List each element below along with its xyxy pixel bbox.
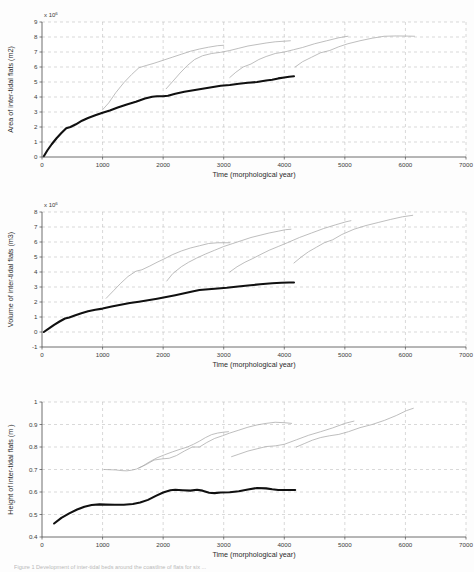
y-tick-label: 0.6	[29, 488, 38, 495]
x-tick-label: 1000	[96, 541, 110, 548]
y-tick-label: 2	[34, 298, 38, 305]
y-tick-label: 4	[34, 93, 38, 100]
y-axis-title: Height of inter-tidal flats (m )	[6, 424, 15, 514]
plot-background	[42, 22, 466, 157]
y-tick-label: 1	[34, 138, 38, 145]
y-tick-label: 3	[34, 283, 38, 290]
x-tick-label: 2000	[156, 351, 170, 358]
y-axis-title: Area of inter-tidal flats (m2)	[6, 46, 15, 133]
chart-svg: 010002000300040005000600070000123456789x…	[0, 0, 474, 190]
y-tick-label: 7	[34, 48, 38, 55]
y-tick-label: 1	[34, 398, 38, 405]
x-tick-label: 3000	[217, 541, 231, 548]
y-tick-label: -1	[32, 343, 38, 350]
y-axis-exponent-label: x 106	[44, 11, 58, 18]
chart-svg: 010002000300040005000600070000.40.50.60.…	[0, 380, 474, 570]
y-tick-label: 7	[34, 223, 38, 230]
x-tick-label: 6000	[399, 541, 413, 548]
x-tick-label: 1000	[96, 351, 110, 358]
y-tick-label: 0.4	[29, 533, 38, 540]
x-tick-label: 7000	[459, 541, 473, 548]
x-axis-title: Time (morphological year)	[212, 170, 295, 179]
y-tick-label: 5	[34, 253, 38, 260]
y-tick-label: 8	[34, 33, 38, 40]
x-tick-label: 1000	[96, 161, 110, 168]
y-tick-label: 4	[34, 268, 38, 275]
x-tick-label: 6000	[399, 161, 413, 168]
y-axis-exponent-label: x 106	[44, 201, 58, 208]
x-tick-label: 5000	[338, 161, 352, 168]
chart-svg: 01000200030004000500060007000-1012345678…	[0, 190, 474, 380]
plot-background	[42, 212, 466, 347]
chart-panel-height: 010002000300040005000600070000.40.50.60.…	[0, 380, 474, 570]
x-tick-label: 4000	[277, 351, 291, 358]
x-tick-label: 3000	[217, 161, 231, 168]
x-tick-label: 3000	[217, 351, 231, 358]
x-axis-title: Time (morphological year)	[212, 550, 295, 559]
y-tick-label: 0.5	[29, 511, 38, 518]
y-tick-label: 0	[34, 328, 38, 335]
x-tick-label: 2000	[156, 541, 170, 548]
x-tick-label: 7000	[459, 161, 473, 168]
x-axis-title: Time (morphological year)	[212, 360, 295, 369]
x-tick-label: 5000	[338, 541, 352, 548]
x-tick-label: 4000	[277, 161, 291, 168]
x-tick-label: 0	[40, 161, 44, 168]
y-tick-label: 6	[34, 238, 38, 245]
y-tick-label: 1	[34, 313, 38, 320]
y-tick-label: 3	[34, 108, 38, 115]
x-tick-label: 0	[40, 351, 44, 358]
y-tick-label: 0.8	[29, 443, 38, 450]
chart-panel-area: 010002000300040005000600070000123456789x…	[0, 0, 474, 190]
x-tick-label: 2000	[156, 161, 170, 168]
y-axis-title: Volume of inter-tidal flats (m3)	[6, 232, 15, 327]
x-tick-label: 5000	[338, 351, 352, 358]
y-tick-label: 0.7	[29, 466, 38, 473]
y-tick-label: 0.9	[29, 421, 38, 428]
y-tick-label: 5	[34, 78, 38, 85]
figure-container: 010002000300040005000600070000123456789x…	[0, 0, 474, 572]
x-tick-label: 7000	[459, 351, 473, 358]
figure-caption: Figure 1 Development of inter-tidal beds…	[14, 563, 464, 571]
y-tick-label: 2	[34, 123, 38, 130]
x-tick-label: 0	[40, 541, 44, 548]
y-tick-label: 9	[34, 18, 38, 25]
chart-panel-volume: 01000200030004000500060007000-1012345678…	[0, 190, 474, 380]
x-tick-label: 6000	[399, 351, 413, 358]
x-tick-label: 4000	[277, 541, 291, 548]
y-tick-label: 6	[34, 63, 38, 70]
y-tick-label: 0	[34, 153, 38, 160]
y-tick-label: 8	[34, 208, 38, 215]
